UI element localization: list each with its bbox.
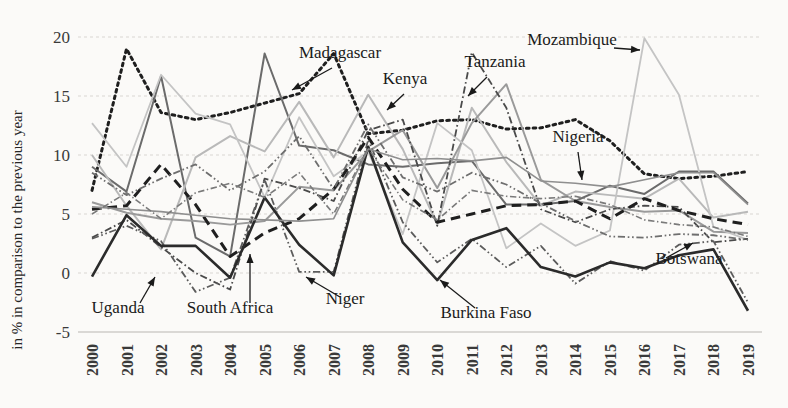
y-tick-label: 15 xyxy=(53,87,70,106)
x-tick-label: 2000 xyxy=(84,344,101,376)
line-chart: 20151050-5 20002001200220032004200520062… xyxy=(0,0,788,408)
x-tick-label: 2015 xyxy=(602,344,619,376)
annotation-arrowhead xyxy=(147,277,155,287)
annotation-label-south-africa: South Africa xyxy=(187,298,274,317)
x-tick-label: 2018 xyxy=(705,344,722,376)
annotation-label-tanzania: Tanzania xyxy=(464,52,526,71)
x-tick-label: 2007 xyxy=(326,344,343,376)
annotation-label-madagascar: Madagascar xyxy=(299,43,381,62)
series-line-botswana xyxy=(92,124,748,240)
y-tick-label: 5 xyxy=(62,205,71,224)
x-tick-label: 2011 xyxy=(464,344,481,375)
x-tick-label: 2004 xyxy=(222,344,239,376)
x-tick-label: 2002 xyxy=(153,344,170,376)
y-axis-label: in % in comparison to the previous year xyxy=(9,110,25,350)
y-tick-label: 0 xyxy=(62,264,71,283)
y-tick-label: 20 xyxy=(53,28,70,47)
y-axis-ticks: 20151050-5 xyxy=(53,28,70,342)
x-tick-label: 2008 xyxy=(360,344,377,376)
y-tick-label: -5 xyxy=(56,323,70,342)
x-axis-ticks: 2000200120022003200420052006200720082009… xyxy=(84,344,757,376)
series-annotations-group: MadagascarKenyaTanzaniaMozambiqueNigeria… xyxy=(92,30,723,322)
x-tick-label: 2019 xyxy=(740,344,757,376)
annotation-arrowhead xyxy=(577,171,584,180)
annotation-label-nigeria: Nigeria xyxy=(553,127,604,146)
x-tick-label: 2001 xyxy=(119,344,136,376)
x-tick-label: 2017 xyxy=(671,344,688,376)
series-line-series-l xyxy=(92,148,748,237)
x-tick-label: 2003 xyxy=(188,344,205,376)
annotation-arrowhead xyxy=(292,83,302,90)
x-tick-label: 2009 xyxy=(395,344,412,376)
x-tick-label: 2010 xyxy=(429,344,446,376)
x-tick-label: 2005 xyxy=(257,344,274,376)
annotation-label-mozambique: Mozambique xyxy=(527,30,617,49)
series-line-kenya xyxy=(92,95,748,250)
annotation-label-uganda: Uganda xyxy=(92,298,145,317)
x-tick-label: 2012 xyxy=(498,344,515,376)
annotation-label-burkina-faso: Burkina Faso xyxy=(440,303,531,322)
chart-canvas: 20151050-5 20002001200220032004200520062… xyxy=(0,0,788,408)
annotation-label-kenya: Kenya xyxy=(383,69,428,88)
annotation-arrowhead xyxy=(306,277,316,285)
annotation-arrowhead xyxy=(440,280,449,288)
y-tick-label: 10 xyxy=(53,146,70,165)
x-tick-label: 2013 xyxy=(533,344,550,376)
x-tick-label: 2016 xyxy=(636,344,653,376)
x-tick-label: 2014 xyxy=(567,344,584,376)
annotation-label-botswana: Botswana xyxy=(655,249,723,268)
x-tick-label: 2006 xyxy=(291,344,308,376)
annotation-arrowhead xyxy=(246,254,253,263)
